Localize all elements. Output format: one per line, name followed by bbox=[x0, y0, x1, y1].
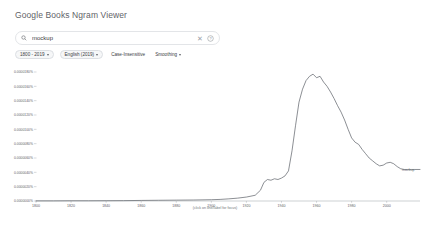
case-insensitive-toggle[interactable]: Case-Insensitive bbox=[109, 50, 147, 59]
ngram-chart[interactable]: 0.0000180%0.0000160%0.0000140%0.0000120%… bbox=[0, 66, 430, 216]
y-axis-tick-label: 0.0000100% bbox=[14, 128, 33, 132]
y-axis-tick-label: 0.0000180% bbox=[14, 70, 33, 74]
close-icon[interactable]: ✕ bbox=[197, 35, 203, 42]
svg-text:?: ? bbox=[209, 37, 211, 41]
search-query-text: mockup bbox=[32, 35, 197, 41]
search-input[interactable]: mockup ✕ ? bbox=[15, 31, 220, 45]
y-axis-tick-label: 0.0000020% bbox=[14, 185, 33, 189]
y-axis-tick-label: 0.0000140% bbox=[14, 99, 33, 103]
chevron-down-icon bbox=[96, 54, 98, 56]
chevron-down-icon bbox=[179, 54, 181, 56]
case-insensitive-label: Case-Insensitive bbox=[111, 52, 145, 57]
y-axis-tick-label: 0.0000080% bbox=[14, 142, 33, 146]
data-series-line[interactable] bbox=[36, 74, 420, 201]
y-axis-tick-label: 0.0000160% bbox=[14, 85, 33, 89]
help-circle-icon[interactable]: ? bbox=[207, 35, 214, 42]
corpus-dropdown[interactable]: English (2019) bbox=[60, 50, 104, 59]
y-axis-tick-label: 0.0000120% bbox=[14, 113, 33, 117]
y-axis-tick-label: 0.0000000% bbox=[14, 199, 33, 203]
y-axis-tick-label: 0.0000040% bbox=[14, 171, 33, 175]
y-axis-tick-label: 0.0000060% bbox=[14, 156, 33, 160]
y-axis-labels: 0.0000180%0.0000160%0.0000140%0.0000120%… bbox=[14, 70, 37, 203]
series-label[interactable]: mockup bbox=[402, 168, 415, 172]
chevron-down-icon bbox=[47, 54, 49, 56]
year-range-dropdown[interactable]: 1800 - 2019 bbox=[15, 50, 54, 59]
year-range-label: 1800 - 2019 bbox=[20, 52, 45, 57]
smoothing-label: Smoothing bbox=[155, 52, 177, 57]
smoothing-dropdown[interactable]: Smoothing bbox=[153, 50, 183, 59]
filter-chips: 1800 - 2019 English (2019) Case-Insensit… bbox=[15, 50, 183, 59]
corpus-label: English (2019) bbox=[65, 52, 95, 57]
search-icon bbox=[21, 35, 27, 41]
chart-caption: (click on line/label for focus) bbox=[0, 206, 430, 210]
page-title: Google Books Ngram Viewer bbox=[15, 10, 127, 20]
ngram-viewer-app: Google Books Ngram Viewer mockup ✕ ? 180… bbox=[0, 0, 430, 234]
